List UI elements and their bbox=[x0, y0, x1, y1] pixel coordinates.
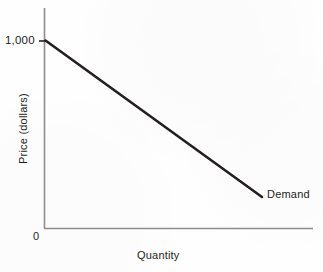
demand-curve-label: Demand bbox=[267, 189, 310, 200]
demand-curve-figure: 1,000 Price (dollars) 0 Quantity Demand bbox=[0, 0, 323, 272]
x-axis-title: Quantity bbox=[137, 250, 180, 261]
demand-curve-line bbox=[46, 41, 263, 198]
chart-canvas bbox=[0, 0, 323, 272]
y-axis-title: Price (dollars) bbox=[18, 84, 29, 174]
origin-label: 0 bbox=[33, 231, 39, 242]
y-axis-tick-label: 1,000 bbox=[5, 35, 35, 47]
